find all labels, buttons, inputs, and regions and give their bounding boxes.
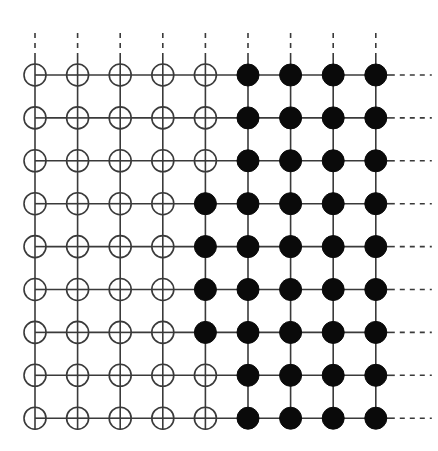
filled-node	[237, 321, 259, 343]
filled-node	[322, 64, 344, 86]
filled-node	[322, 364, 344, 386]
filled-node	[365, 107, 387, 129]
filled-node	[237, 150, 259, 172]
filled-node	[322, 407, 344, 429]
filled-node	[280, 279, 302, 301]
filled-node	[237, 364, 259, 386]
filled-node	[365, 64, 387, 86]
filled-node	[280, 64, 302, 86]
filled-node	[322, 321, 344, 343]
filled-node	[365, 407, 387, 429]
filled-node	[194, 279, 216, 301]
filled-node	[237, 64, 259, 86]
filled-node	[322, 107, 344, 129]
filled-node	[322, 279, 344, 301]
filled-node	[237, 236, 259, 258]
filled-node	[322, 150, 344, 172]
filled-node	[365, 150, 387, 172]
grid-nodes	[24, 64, 387, 429]
filled-node	[194, 321, 216, 343]
filled-node	[365, 364, 387, 386]
filled-node	[365, 279, 387, 301]
lattice-diagram	[0, 0, 438, 451]
filled-node	[365, 321, 387, 343]
filled-node	[280, 364, 302, 386]
filled-node	[280, 150, 302, 172]
filled-node	[237, 107, 259, 129]
filled-node	[280, 236, 302, 258]
filled-node	[280, 107, 302, 129]
filled-node	[280, 321, 302, 343]
filled-node	[322, 236, 344, 258]
filled-node	[194, 193, 216, 215]
filled-node	[322, 193, 344, 215]
filled-node	[365, 236, 387, 258]
filled-node	[194, 236, 216, 258]
filled-node	[280, 407, 302, 429]
filled-node	[365, 193, 387, 215]
filled-node	[280, 193, 302, 215]
filled-node	[237, 279, 259, 301]
lattice-svg	[0, 0, 438, 451]
filled-node	[237, 407, 259, 429]
filled-node	[237, 193, 259, 215]
